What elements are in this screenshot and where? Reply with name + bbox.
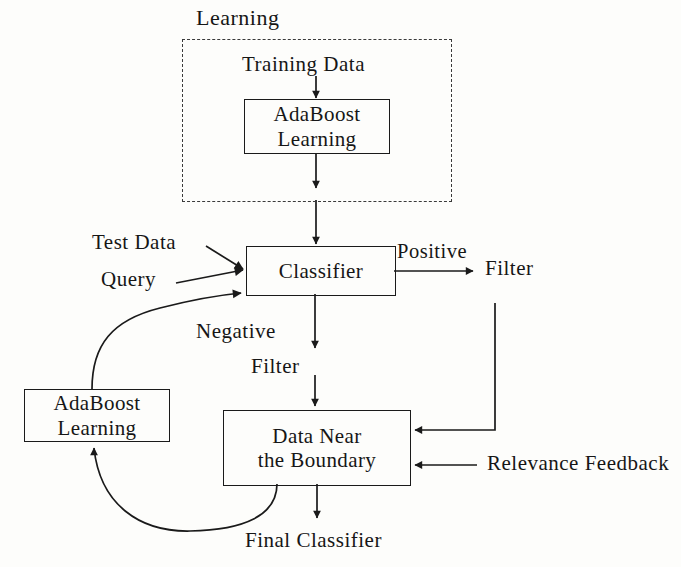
classifier-label: Classifier bbox=[279, 259, 363, 283]
classifier-box[interactable]: Classifier bbox=[246, 246, 396, 296]
learning-group-title: Learning bbox=[196, 6, 279, 30]
query-label: Query bbox=[101, 268, 156, 291]
adaboost-learning-top-line1: AdaBoost bbox=[273, 102, 360, 126]
filter-positive-label: Filter bbox=[485, 257, 534, 280]
adaboost-learning-bottom-box[interactable]: AdaBoost Learning bbox=[24, 389, 170, 442]
test-data-label: Test Data bbox=[92, 231, 176, 254]
data-near-boundary-line1: Data Near bbox=[272, 424, 361, 448]
adaboost-learning-top-line2: Learning bbox=[278, 127, 357, 151]
edge-filter-positive-to-data-near bbox=[415, 303, 495, 430]
edge-query-to-classifier bbox=[176, 270, 243, 283]
data-near-boundary-line2: the Boundary bbox=[258, 448, 377, 472]
filter-negative-label: Filter bbox=[251, 355, 300, 378]
data-near-boundary-box[interactable]: Data Near the Boundary bbox=[223, 410, 411, 486]
flowchart-diagram: Learning Training Data AdaBoost Learning… bbox=[0, 0, 681, 567]
edge-test-data-to-classifier bbox=[206, 246, 243, 269]
adaboost-learning-bottom-line1: AdaBoost bbox=[53, 391, 140, 415]
training-data-label: Training Data bbox=[242, 53, 365, 76]
adaboost-learning-top-box[interactable]: AdaBoost Learning bbox=[244, 99, 390, 154]
relevance-feedback-label: Relevance Feedback bbox=[487, 452, 669, 475]
final-classifier-label: Final Classifier bbox=[245, 529, 382, 552]
negative-edge-label: Negative bbox=[196, 320, 276, 343]
adaboost-learning-bottom-line2: Learning bbox=[58, 416, 137, 440]
positive-edge-label: Positive bbox=[397, 240, 467, 263]
